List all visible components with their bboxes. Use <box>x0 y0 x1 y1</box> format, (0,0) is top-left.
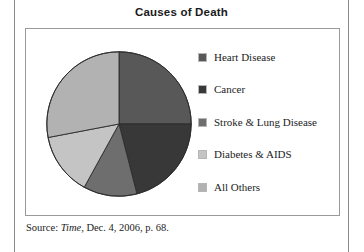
legend-item-label: Cancer <box>214 84 245 95</box>
pie-chart <box>39 44 199 204</box>
pie-slice[interactable] <box>119 52 191 124</box>
legend-item[interactable]: All Others <box>198 177 338 197</box>
legend-item[interactable]: Diabetes & AIDS <box>198 145 338 165</box>
legend-swatch-icon <box>198 118 207 127</box>
legend-item-label: All Others <box>214 182 260 193</box>
legend-item[interactable]: Cancer <box>198 80 338 100</box>
source-publication: Time <box>61 222 81 233</box>
source-note: Source: Time, Dec. 4, 2006, p. 68. <box>26 222 169 233</box>
legend-swatch-icon <box>198 183 207 192</box>
pie-chart-svg <box>39 44 199 204</box>
legend-item[interactable]: Heart Disease <box>198 47 338 67</box>
chart-plot-box: Heart Disease Cancer Stroke & Lung Disea… <box>25 28 340 216</box>
legend-item[interactable]: Stroke & Lung Disease <box>198 112 338 132</box>
source-prefix: Source: <box>26 222 61 233</box>
legend-swatch-icon <box>198 85 207 94</box>
legend-item-label: Diabetes & AIDS <box>214 149 292 160</box>
legend-item-label: Stroke & Lung Disease <box>214 117 317 128</box>
legend-item-label: Heart Disease <box>214 52 275 63</box>
legend-swatch-icon <box>198 150 207 159</box>
pie-slice[interactable] <box>47 52 119 138</box>
pie-slice-group <box>47 52 191 196</box>
page-title: Causes of Death <box>14 6 349 18</box>
source-suffix: , Dec. 4, 2006, p. 68. <box>81 222 169 233</box>
chart-legend: Heart Disease Cancer Stroke & Lung Disea… <box>198 47 338 210</box>
legend-swatch-icon <box>198 53 207 62</box>
